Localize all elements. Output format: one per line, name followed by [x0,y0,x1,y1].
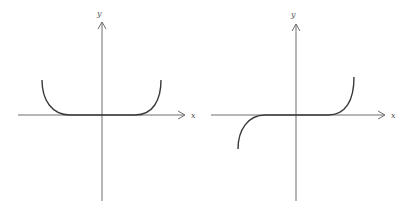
left-branch-curve [42,80,70,115]
right-branch-curve [328,77,354,115]
diagram-canvas: x y x y [0,0,407,213]
x-axis-label: x [191,111,196,120]
left-branch-curve [238,115,265,149]
even-function-graph: x y [18,9,196,201]
y-axis-label: y [290,10,296,19]
x-axis-label: x [391,111,396,120]
y-axis-label: y [96,9,102,18]
right-branch-curve [135,80,161,115]
odd-function-graph: x y [211,10,396,201]
